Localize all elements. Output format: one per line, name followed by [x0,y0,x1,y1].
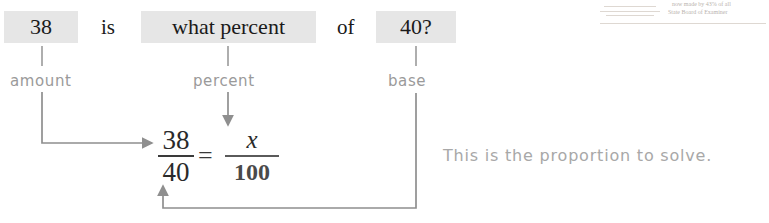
fraction-right-denominator: 100 [225,158,279,186]
artifact-rule-2 [600,11,660,12]
arrow-amount-to-numerator [42,92,152,143]
equals-sign: = [198,141,213,171]
artifact-rule-4 [600,23,766,24]
fraction-left: 38 40 [158,126,194,186]
proportion-note: This is the proportion to solve. [443,146,712,165]
artifact-text-line-1: now made by 43% of all [672,1,731,8]
fraction-left-denominator: 40 [158,158,194,186]
percent-highlight-box: what percent [141,11,316,43]
worksheet-figure: now made by 43% of all State Board of Ex… [0,0,769,223]
label-percent: percent [193,72,255,90]
artifact-rule-3 [606,15,654,16]
artifact-rule-1 [604,6,656,7]
fraction-right-bar [225,155,279,157]
word-of: of [337,11,355,43]
fraction-right-numerator: x [225,126,279,154]
word-is: is [101,11,115,43]
amount-highlight-box: 38 [4,11,78,43]
base-highlight-box: 40? [376,11,456,43]
fraction-left-numerator: 38 [158,126,194,154]
label-base: base [388,72,426,90]
label-amount: amount [10,72,71,90]
artifact-text-line-2: State Board of Examiner [668,9,727,16]
fraction-right: x 100 [225,126,279,186]
